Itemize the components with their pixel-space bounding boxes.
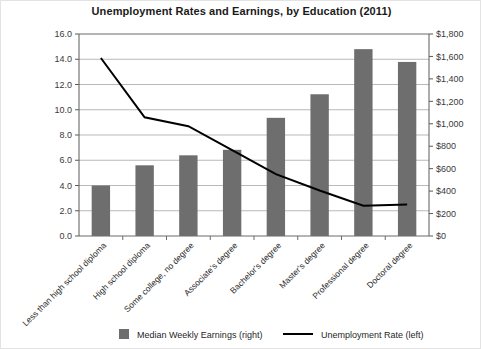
left-axis-tick-label: 6.0 <box>59 155 72 165</box>
left-axis-tick-label: 8.0 <box>59 130 72 140</box>
left-axis-tick-label: 12.0 <box>54 80 72 90</box>
right-axis-tick-label: $1,000 <box>436 119 464 129</box>
left-axis-tick-label: 16.0 <box>54 29 72 39</box>
category-label: Less than high school diploma <box>20 240 108 328</box>
chart-legend: Median Weekly Earnings (right)Unemployme… <box>119 329 424 340</box>
right-axis-ticks: $0$200$400$600$800$1,000$1,200$1,400$1,6… <box>429 29 464 241</box>
category-label: Doctoral degree <box>365 240 415 290</box>
category-axis-labels: Less than high school diplomaHigh school… <box>20 240 414 328</box>
legend-label-unemployment: Unemployment Rate (left) <box>321 330 424 340</box>
left-axis-ticks: 0.02.04.06.08.010.012.014.016.0 <box>54 29 79 241</box>
category-label: Master's degree <box>277 240 327 290</box>
right-axis-tick-label: $1,800 <box>436 29 464 39</box>
left-axis-tick-label: 2.0 <box>59 206 72 216</box>
bar <box>92 186 110 237</box>
bar-series-median-weekly-earnings <box>92 49 417 240</box>
left-axis-tick-label: 10.0 <box>54 105 72 115</box>
bar <box>223 150 241 236</box>
left-axis-tick-label: 4.0 <box>59 181 72 191</box>
right-axis-tick-label: $1,400 <box>436 74 464 84</box>
right-axis-tick-label: $600 <box>436 164 456 174</box>
right-axis-tick-label: $1,200 <box>436 97 464 107</box>
legend-label-earnings: Median Weekly Earnings (right) <box>137 330 262 340</box>
bar <box>179 155 197 236</box>
chart-container: Unemployment Rates and Earnings, by Educ… <box>0 0 481 349</box>
right-axis-tick-label: $0 <box>436 231 446 241</box>
bar <box>354 49 372 236</box>
left-axis-tick-label: 14.0 <box>54 54 72 64</box>
right-axis-tick-label: $400 <box>436 186 456 196</box>
right-axis-tick-label: $200 <box>436 209 456 219</box>
left-axis-tick-label: 0.0 <box>59 231 72 241</box>
right-axis-tick-label: $800 <box>436 141 456 151</box>
right-axis-tick-label: $1,600 <box>436 52 464 62</box>
bar <box>135 165 153 236</box>
bar <box>398 62 416 236</box>
bar <box>310 94 328 236</box>
legend-swatch-earnings <box>119 329 129 339</box>
chart-plot: 0.02.04.06.08.010.012.014.016.0 $0$200$4… <box>1 1 481 349</box>
